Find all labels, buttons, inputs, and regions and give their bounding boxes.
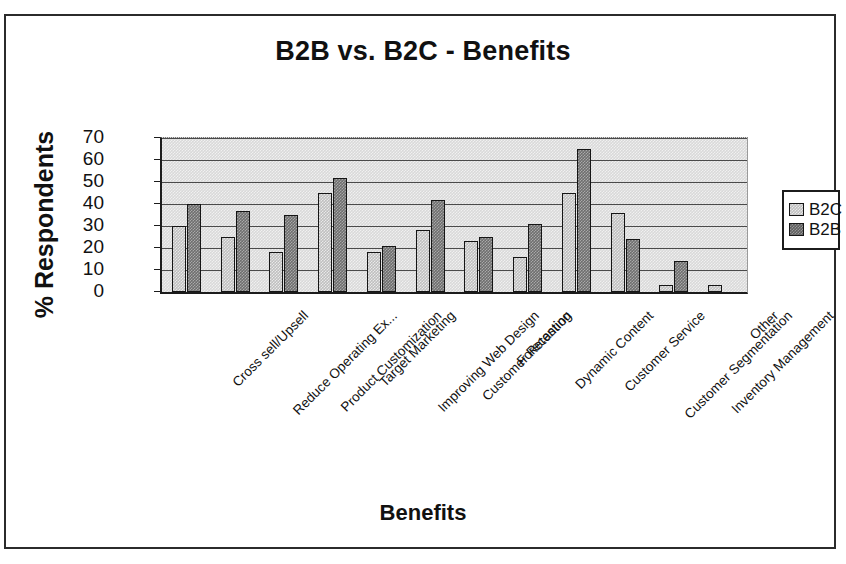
legend-item-b2b: B2B — [789, 221, 833, 238]
x-tick-mark — [674, 292, 675, 294]
x-tick-mark — [479, 292, 480, 294]
bar-b2c-1 — [221, 237, 235, 292]
x-tick-mark — [723, 292, 724, 294]
y-tick-label: 0 — [60, 280, 104, 302]
bar-group — [162, 138, 211, 292]
chart-page: B2B vs. B2C - Benefits % Respondents 010… — [0, 0, 846, 564]
x-tick-mark — [333, 292, 334, 294]
x-tick-mark — [235, 292, 236, 294]
y-tick-label: 40 — [60, 192, 104, 214]
bar-group — [211, 138, 260, 292]
y-tick-label: 20 — [60, 236, 104, 258]
bar-b2b-10 — [674, 261, 688, 292]
x-tick-mark — [528, 292, 529, 294]
legend-label-b2c: B2C — [809, 201, 842, 218]
x-tick-mark — [284, 292, 285, 294]
bar-b2c-0 — [172, 226, 186, 292]
plot-area — [160, 137, 748, 294]
bar-group — [308, 138, 357, 292]
bar-group — [698, 138, 747, 292]
x-tick-mark — [381, 292, 382, 294]
bar-group — [503, 138, 552, 292]
bar-b2b-7 — [528, 224, 542, 292]
bar-b2b-2 — [284, 215, 298, 292]
y-axis-title: % Respondents — [30, 95, 59, 355]
y-tick-mark — [154, 291, 160, 292]
x-axis-title: Benefits — [0, 500, 846, 526]
bar-b2c-3 — [318, 193, 332, 292]
y-tick-mark — [154, 247, 160, 248]
bar-b2c-7 — [513, 257, 527, 292]
bar-group — [406, 138, 455, 292]
bar-b2b-8 — [577, 149, 591, 292]
legend-item-b2c: B2C — [789, 201, 833, 218]
x-tick-mark — [625, 292, 626, 294]
x-tick-mark — [430, 292, 431, 294]
x-tick-mark — [186, 292, 187, 294]
bar-b2c-9 — [611, 213, 625, 292]
x-tick-mark — [576, 292, 577, 294]
bar-group — [357, 138, 406, 292]
bar-b2c-10 — [659, 285, 673, 292]
bar-b2b-4 — [382, 246, 396, 292]
bar-group — [552, 138, 601, 292]
plot-wrapper: 010203040506070 — [108, 132, 748, 304]
y-tick-mark — [154, 225, 160, 226]
y-tick-label: 60 — [60, 148, 104, 170]
bar-b2b-5 — [431, 200, 445, 292]
bar-b2b-6 — [479, 237, 493, 292]
legend-swatch-b2b — [789, 223, 804, 236]
bar-group — [260, 138, 309, 292]
y-tick-mark — [154, 137, 160, 138]
y-tick-label: 10 — [60, 258, 104, 280]
x-axis-category-labels: Cross sell/UpsellReduce Operating Ex...P… — [108, 308, 808, 438]
bar-b2c-11 — [708, 285, 722, 292]
y-tick-mark — [154, 181, 160, 182]
bar-b2b-0 — [187, 204, 201, 292]
bar-b2c-5 — [416, 230, 430, 292]
y-tick-label: 70 — [60, 126, 104, 148]
bar-group — [650, 138, 699, 292]
bar-b2c-8 — [562, 193, 576, 292]
chart-legend: B2C B2B — [782, 190, 840, 250]
bar-b2b-1 — [236, 211, 250, 292]
bar-b2b-3 — [333, 178, 347, 292]
bar-b2c-4 — [367, 252, 381, 292]
bar-b2b-9 — [626, 239, 640, 292]
bar-b2c-6 — [464, 241, 478, 292]
bar-group — [601, 138, 650, 292]
chart-title: B2B vs. B2C - Benefits — [0, 36, 846, 67]
y-tick-mark — [154, 203, 160, 204]
y-tick-label: 30 — [60, 214, 104, 236]
y-tick-mark — [154, 269, 160, 270]
x-category-label: Cross sell/Upsell — [230, 308, 312, 390]
y-tick-label: 50 — [60, 170, 104, 192]
bar-group — [455, 138, 504, 292]
legend-label-b2b: B2B — [809, 221, 841, 238]
y-tick-mark — [154, 159, 160, 160]
bar-series-container — [162, 138, 747, 292]
legend-swatch-b2c — [789, 203, 804, 216]
bar-b2c-2 — [269, 252, 283, 292]
